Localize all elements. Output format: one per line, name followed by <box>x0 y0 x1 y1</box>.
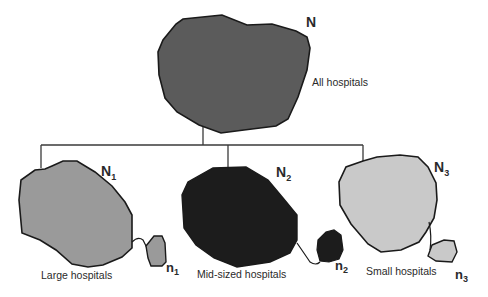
sample-blob-small <box>428 240 457 262</box>
sample-large-symbol: n1 <box>166 260 179 277</box>
tree-connectors <box>41 122 363 168</box>
stratum-large-label: Large hospitals <box>41 269 112 281</box>
sample-blob-large <box>146 236 166 266</box>
root-symbol: N <box>306 14 316 30</box>
root-label: All hospitals <box>312 76 368 88</box>
sample-mid-symbol: n2 <box>335 258 348 275</box>
sample-link-mid <box>297 243 320 264</box>
population-blob-mid <box>182 167 297 267</box>
sample-link-small <box>429 222 431 250</box>
stratum-mid-symbol: N2 <box>276 164 291 183</box>
root-population: N All hospitals <box>158 14 368 133</box>
sample-link-large <box>132 238 148 250</box>
stratum-mid-label: Mid-sized hospitals <box>197 268 286 280</box>
population-blob-small <box>339 155 437 252</box>
stratum-mid: N2 n2 Mid-sized hospitals <box>182 164 348 280</box>
stratified-sampling-diagram: N All hospitals N1 n1 Large hospitals N2… <box>0 0 488 297</box>
stratum-small-symbol: N3 <box>434 159 449 178</box>
stratum-large: N1 n1 Large hospitals <box>19 161 179 281</box>
sample-small-symbol: n3 <box>455 267 468 284</box>
population-blob-all <box>158 15 310 133</box>
stratum-small: N3 n3 Small hospitals <box>339 155 468 284</box>
stratum-small-label: Small hospitals <box>366 265 437 277</box>
